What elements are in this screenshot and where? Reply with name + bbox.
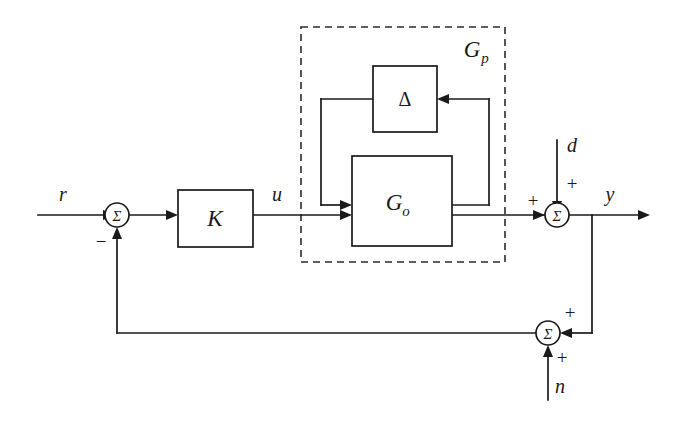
reference-signal-label: r xyxy=(59,183,67,205)
error-sum-glyph: Σ xyxy=(112,208,122,224)
disturbance-signal-label: d xyxy=(567,134,578,156)
disturbance-sum-disturbance-sign: + xyxy=(567,173,578,194)
plant-group-label-subscript: p xyxy=(480,50,489,66)
error-sum-feedback-sign: − xyxy=(96,231,107,252)
output-to-noise-sum-arrowhead xyxy=(560,328,572,338)
plant-group-label: G xyxy=(464,37,481,62)
noise-sum-glyph: Σ xyxy=(543,326,553,342)
plant-output-arrowhead xyxy=(533,210,545,220)
delta-input-arrowhead xyxy=(437,94,449,104)
control-signal-label: u xyxy=(272,183,282,205)
delta-output-arrowhead xyxy=(340,200,352,210)
uncertainty-block-label: Δ xyxy=(399,88,412,110)
control-system-diagram: K G o Δ Σ Σ Σ r u d y n G p − + + + + xyxy=(0,0,675,421)
controller-block-label: K xyxy=(206,206,224,231)
output-arrowhead xyxy=(638,210,650,220)
disturbance-sum-glyph: Σ xyxy=(552,208,562,224)
control-signal-arrowhead xyxy=(340,210,352,220)
nominal-plant-block-label: G xyxy=(386,190,403,215)
output-signal-label: y xyxy=(604,183,615,206)
noise-sum-measurement-sign: + xyxy=(565,302,576,323)
disturbance-sum-forward-sign: + xyxy=(528,190,539,211)
error-to-controller-arrowhead xyxy=(166,210,178,220)
feedback-arrowhead xyxy=(112,227,122,239)
noise-sum-noise-sign: + xyxy=(557,347,568,368)
nominal-plant-block-subscript: o xyxy=(402,203,410,219)
block-diagram-figure: K G o Δ Σ Σ Σ r u d y n G p − + + + + xyxy=(0,0,675,421)
noise-signal-label: n xyxy=(555,375,565,397)
noise-arrowhead xyxy=(543,345,553,357)
